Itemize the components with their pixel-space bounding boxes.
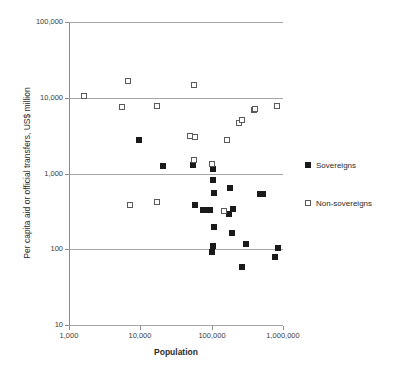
data-point-sovereigns xyxy=(260,191,266,197)
data-point-sovereigns xyxy=(211,190,217,196)
y-tick-label: 100,000 xyxy=(3,18,63,26)
data-point-sovereigns xyxy=(229,230,235,236)
data-point-non-sovereigns xyxy=(127,202,133,208)
data-point-non-sovereigns xyxy=(81,93,87,99)
data-point-sovereigns xyxy=(227,185,233,191)
legend-label-non-sovereigns: Non-sovereigns xyxy=(316,199,372,208)
data-point-sovereigns xyxy=(210,177,216,183)
data-point-sovereigns xyxy=(239,264,245,270)
x-axis-title: Population xyxy=(69,347,283,357)
x-tick-label: 1,000 xyxy=(34,331,104,340)
x-tick-mark xyxy=(283,326,284,330)
open-square-icon xyxy=(305,200,311,206)
legend-label-sovereigns: Sovereigns xyxy=(316,161,356,170)
y-tick-label: 1,000 xyxy=(3,170,63,178)
x-tick-label: 10,000 xyxy=(105,331,175,340)
data-point-non-sovereigns xyxy=(209,161,215,167)
data-point-non-sovereigns xyxy=(191,82,197,88)
data-point-non-sovereigns xyxy=(192,134,198,140)
gridline-y xyxy=(69,249,283,250)
x-tick-mark xyxy=(69,326,70,330)
gridline-y xyxy=(69,98,283,99)
y-tick-mark xyxy=(65,174,69,175)
x-tick-mark xyxy=(140,326,141,330)
data-point-sovereigns xyxy=(207,207,213,213)
data-point-sovereigns xyxy=(190,162,196,168)
data-point-sovereigns xyxy=(230,206,236,212)
data-point-sovereigns xyxy=(192,202,198,208)
x-tick-label: 100,000 xyxy=(177,331,247,340)
data-point-non-sovereigns xyxy=(221,208,227,214)
data-point-non-sovereigns xyxy=(252,106,258,112)
gridline-y xyxy=(69,325,283,326)
gridline-y xyxy=(69,22,283,23)
y-axis-title: Per capita aid or official transfers, US… xyxy=(22,53,32,293)
y-tick-label: 100 xyxy=(3,245,63,253)
filled-square-icon xyxy=(305,162,311,168)
data-point-non-sovereigns xyxy=(224,137,230,143)
x-tick-mark xyxy=(212,326,213,330)
gridline-y xyxy=(69,174,283,175)
data-point-sovereigns xyxy=(211,224,217,230)
data-point-sovereigns xyxy=(243,241,249,247)
data-point-sovereigns xyxy=(160,163,166,169)
y-tick-mark xyxy=(65,98,69,99)
data-point-non-sovereigns xyxy=(154,103,160,109)
data-point-sovereigns xyxy=(136,137,142,143)
chart-legend: Sovereigns Non-sovereigns xyxy=(305,158,400,234)
y-tick-label: 10 xyxy=(3,321,63,329)
data-point-non-sovereigns xyxy=(154,199,160,205)
scatter-chart-figure: 101001,00010,000100,0001,00010,000100,00… xyxy=(0,0,401,379)
x-tick-label: 1,000,000 xyxy=(248,331,318,340)
legend-item-non-sovereigns[interactable]: Non-sovereigns xyxy=(305,196,400,210)
data-point-sovereigns xyxy=(209,249,215,255)
y-tick-label: 10,000 xyxy=(3,94,63,102)
data-point-non-sovereigns xyxy=(191,157,197,163)
legend-item-sovereigns[interactable]: Sovereigns xyxy=(305,158,400,172)
data-point-non-sovereigns xyxy=(125,78,131,84)
y-tick-mark xyxy=(65,249,69,250)
y-tick-mark xyxy=(65,22,69,23)
data-point-non-sovereigns xyxy=(239,117,245,123)
data-point-non-sovereigns xyxy=(119,104,125,110)
data-point-non-sovereigns xyxy=(274,103,280,109)
data-point-sovereigns xyxy=(275,245,281,251)
data-point-sovereigns xyxy=(272,254,278,260)
